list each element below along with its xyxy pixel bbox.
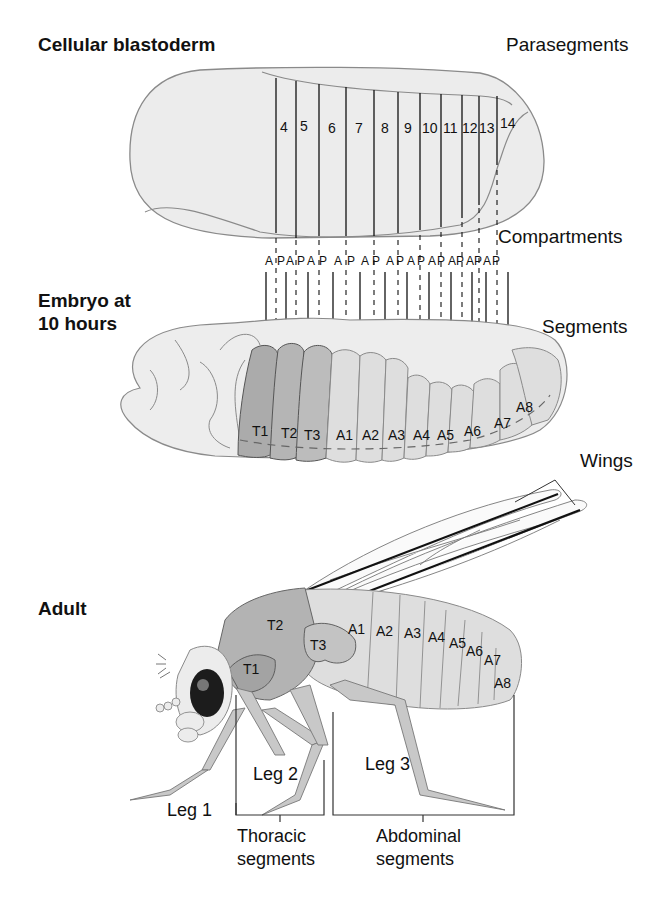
svg-text:P: P xyxy=(474,254,482,268)
svg-text:A: A xyxy=(265,254,273,268)
svg-text:A3: A3 xyxy=(404,625,421,641)
svg-text:7: 7 xyxy=(355,120,363,136)
svg-text:A1: A1 xyxy=(336,427,353,443)
svg-text:A8: A8 xyxy=(516,399,533,415)
svg-text:T2: T2 xyxy=(267,617,284,633)
svg-text:P: P xyxy=(492,254,500,268)
svg-text:P: P xyxy=(437,254,445,268)
drosophila-segmentation-diagram: 4 5 6 7 8 9 10 11 12 13 14 A P A P A xyxy=(0,0,664,897)
svg-text:A: A xyxy=(361,254,369,268)
svg-text:A7: A7 xyxy=(484,652,501,668)
svg-text:9: 9 xyxy=(404,120,412,136)
svg-text:T1: T1 xyxy=(252,423,269,439)
svg-text:T1: T1 xyxy=(243,661,260,677)
svg-text:5: 5 xyxy=(300,118,308,134)
svg-text:4: 4 xyxy=(280,119,288,135)
svg-text:T3: T3 xyxy=(310,637,327,653)
svg-text:T2: T2 xyxy=(281,425,298,441)
svg-text:P: P xyxy=(396,254,404,268)
svg-text:A: A xyxy=(483,254,491,268)
svg-text:A7: A7 xyxy=(494,415,511,431)
svg-text:12: 12 xyxy=(462,120,478,136)
svg-text:P: P xyxy=(417,254,425,268)
adult-fly: T1 T2 T3 A1 A2 A3 A4 A5 A6 A7 A8 xyxy=(130,480,587,815)
svg-text:A1: A1 xyxy=(348,621,365,637)
svg-text:A3: A3 xyxy=(388,427,405,443)
compartment-labels: A P A P A P A P A P A P A P A P A P A P … xyxy=(265,254,500,268)
svg-text:11: 11 xyxy=(443,120,458,136)
svg-text:A4: A4 xyxy=(428,629,445,645)
svg-text:10: 10 xyxy=(422,120,438,136)
svg-text:A2: A2 xyxy=(376,623,393,639)
svg-text:8: 8 xyxy=(381,120,389,136)
blastoderm-embryo: 4 5 6 7 8 9 10 11 12 13 14 xyxy=(130,67,544,238)
svg-text:A: A xyxy=(448,254,456,268)
svg-text:6: 6 xyxy=(328,120,336,136)
embryo-10-hours: T1 T2 T3 A1 A2 A3 A4 A5 A6 A7 A8 xyxy=(121,318,567,462)
svg-text:P: P xyxy=(319,254,327,268)
svg-text:14: 14 xyxy=(500,115,516,131)
svg-text:A: A xyxy=(334,254,342,268)
svg-text:A: A xyxy=(386,254,394,268)
svg-text:A: A xyxy=(428,254,436,268)
svg-text:A: A xyxy=(407,254,415,268)
svg-text:A5: A5 xyxy=(437,427,454,443)
wing-leading-edge-1 xyxy=(305,494,558,591)
svg-text:A: A xyxy=(286,254,294,268)
svg-text:P: P xyxy=(372,254,380,268)
svg-text:A6: A6 xyxy=(466,643,483,659)
svg-text:A4: A4 xyxy=(413,427,430,443)
svg-text:A8: A8 xyxy=(494,675,511,691)
svg-text:P: P xyxy=(347,254,355,268)
svg-text:T3: T3 xyxy=(304,427,321,443)
svg-text:P: P xyxy=(277,254,285,268)
svg-text:A: A xyxy=(466,254,474,268)
svg-text:P: P xyxy=(456,254,464,268)
compound-eye xyxy=(190,669,224,717)
svg-text:A5: A5 xyxy=(449,635,466,651)
svg-text:A2: A2 xyxy=(362,427,379,443)
svg-text:A: A xyxy=(307,254,315,268)
svg-text:P: P xyxy=(297,254,305,268)
svg-text:13: 13 xyxy=(479,120,495,136)
svg-text:A6: A6 xyxy=(464,423,481,439)
